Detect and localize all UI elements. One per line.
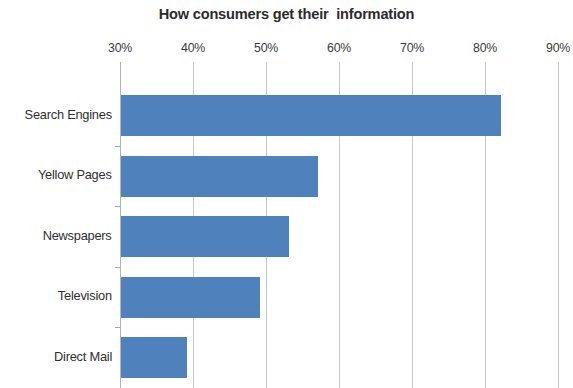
category-tick-mark: [115, 146, 120, 147]
x-tick-label: 50%: [254, 40, 278, 55]
bar: [121, 277, 260, 318]
x-axis-tick-labels: 30%40%50%60%70%80%90%: [0, 40, 573, 60]
chart-title: How consumers get their information: [17, 5, 556, 23]
category-label: Television: [58, 288, 112, 303]
category-label: Yellow Pages: [38, 167, 112, 182]
gridline: [558, 62, 559, 388]
x-tick-label: 40%: [181, 40, 205, 55]
category-label: Newspapers: [43, 228, 112, 243]
x-tick-label: 30%: [108, 40, 132, 55]
category-tick-mark: [115, 267, 120, 268]
bar: [121, 156, 318, 197]
bar-chart: How consumers get their information 30%4…: [0, 0, 573, 388]
bar: [121, 337, 187, 378]
x-tick-label: 60%: [327, 40, 351, 55]
category-tick-mark: [115, 206, 120, 207]
category-label: Direct Mail: [54, 349, 112, 364]
x-tick-label: 70%: [400, 40, 424, 55]
category-tick-mark: [115, 327, 120, 328]
bar: [121, 95, 501, 136]
plot-area: [120, 62, 573, 388]
category-label: Search Engines: [25, 107, 112, 122]
x-tick-label: 90%: [546, 40, 570, 55]
x-tick-label: 80%: [473, 40, 497, 55]
category-axis-labels: Search EnginesYellow PagesNewspapersTele…: [0, 62, 112, 388]
bar: [121, 216, 289, 257]
